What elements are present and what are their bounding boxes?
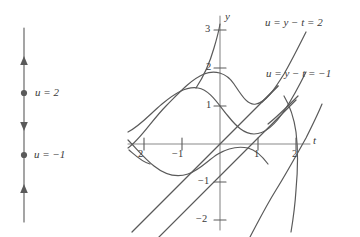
phase-arrow-up-top [20,56,28,65]
figure-canvas [0,0,360,237]
y-tick-label-minus-2-text: −2 [196,213,207,224]
t-tick-label-minus-2: 2 [138,148,143,159]
t-tick-label-minus-1: −1 [172,148,183,159]
phase-arrow-down-middle [20,122,28,131]
t-tick-label-2-text: 2 [292,148,297,159]
y-axis-label-text: y [225,10,230,22]
y-tick-label-minus-2: −2 [196,213,207,224]
y-tick-label-3-text: 3 [205,23,210,34]
phase-line-label-u-2-text: u = 2 [35,86,59,98]
y-tick-label-2: 2 [206,61,211,72]
t-tick-label-2: 2 [292,148,297,159]
t-axis-label-text: t [313,134,316,146]
t-tick-label-minus-1-text: −1 [172,148,183,159]
y-tick-label-1: 1 [206,99,211,110]
solution-curve-upper [128,32,306,148]
y-tick-label-minus-1: −1 [198,175,209,186]
equilibrium-line-u-equals-minus-1 [155,100,296,237]
t-tick-label-1-text: 1 [254,148,259,159]
y-tick-label-2-text: 2 [206,61,211,72]
y-tick-label-minus-1-text: −1 [198,175,209,186]
phase-line-group [20,28,28,222]
curve-label-u-equals-minus-1-text: u = y − t = −1 [266,67,331,79]
curve-label-u-equals-minus-1: u = y − t = −1 [266,67,331,79]
y-axis-label: y [225,10,230,22]
t-tick-label-minus-2-text: 2 [138,148,143,159]
equilibrium-line-u-equals-2 [132,86,278,232]
solution-curve-lower-oscillatory [128,140,268,176]
y-tick-label-3: 3 [205,23,210,34]
phase-equilibrium-dot-u-minus-1 [21,152,27,158]
coordinate-axes-group [128,16,310,230]
solution-curve-rising-right [250,104,322,237]
phase-equilibrium-dot-u-2 [21,90,27,96]
phase-line-label-u-minus-1-text: u = −1 [34,148,65,160]
curve-label-u-equals-2: u = y − t = 2 [265,16,323,28]
y-tick-label-1-text: 1 [206,99,211,110]
phase-arrow-up-bottom [20,184,28,193]
curve-label-u-equals-2-text: u = y − t = 2 [265,16,323,28]
t-tick-label-1: 1 [254,148,259,159]
phase-line-and-solution-curves-figure: u = 2 u = −1 u = y − t = 2 u = y − t = −… [0,0,360,237]
phase-line-label-u-minus-1: u = −1 [34,148,65,160]
t-axis-label: t [313,134,316,146]
phase-line-label-u-2: u = 2 [35,86,59,98]
